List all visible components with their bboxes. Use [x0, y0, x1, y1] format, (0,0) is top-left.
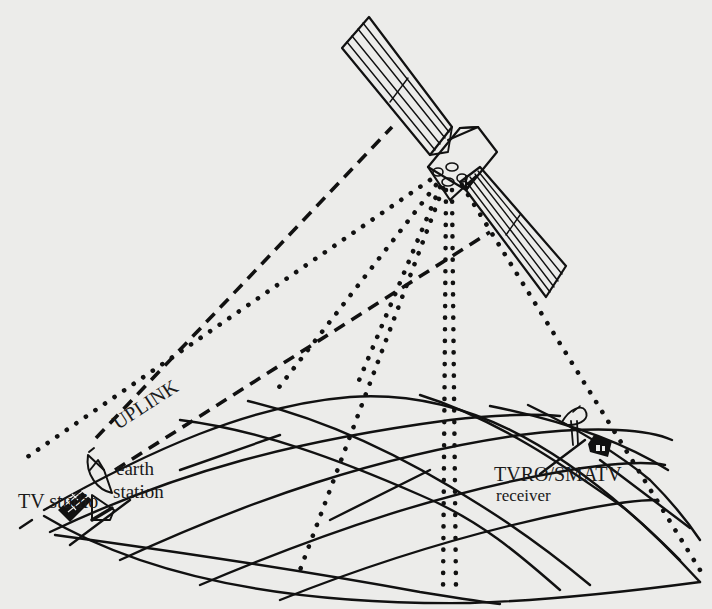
satellite-broadcast-diagram: UPLINK earth station TV studio TVRO/SMAT…: [0, 0, 712, 609]
receiver-label-line2: receiver: [496, 486, 551, 505]
uplink-label: UPLINK: [108, 375, 182, 434]
earth-station-label-line2: station: [113, 481, 164, 502]
receiver-label-line1: TVRO/SMATV: [494, 463, 622, 485]
solar-panel-upper: [342, 17, 452, 155]
downlink-beams: [20, 180, 700, 595]
solar-panel-lower: [460, 167, 566, 297]
tv-studio-label: TV studio: [18, 490, 98, 512]
earth-station-label-line1: earth: [116, 458, 154, 479]
